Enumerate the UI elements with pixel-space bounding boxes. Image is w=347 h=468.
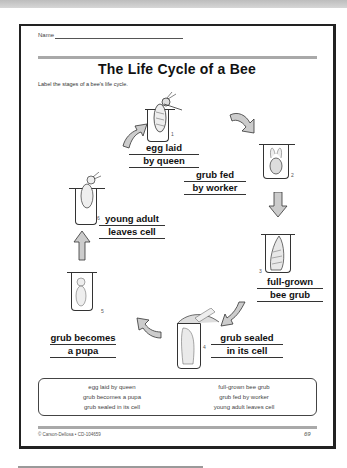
worksheet-page: Name The Life Cycle of a Bee Label the s… xyxy=(19,24,336,449)
stage-label-6[interactable]: young adult leaves cell xyxy=(99,214,165,240)
stage-label-2[interactable]: grub fed by worker xyxy=(184,170,246,196)
arrow-icon xyxy=(228,109,258,135)
arrow-icon xyxy=(268,192,288,218)
stage-number: 1 xyxy=(171,131,174,137)
arrow-icon xyxy=(119,120,149,150)
name-input-line[interactable] xyxy=(55,38,183,39)
arrow-icon xyxy=(133,316,163,344)
instructions: Label the stages of a bee's life cycle. xyxy=(38,81,128,87)
stage-number: 5 xyxy=(101,308,104,314)
page-number: 69 xyxy=(304,431,311,437)
arrow-icon xyxy=(73,230,91,262)
young-adult-bee-icon xyxy=(73,172,103,212)
grub-icon xyxy=(179,326,197,366)
word-bank-item: full-grown bee grub xyxy=(179,382,309,392)
arrow-icon xyxy=(219,300,249,330)
stage-number: 3 xyxy=(259,268,262,274)
word-bank-item: grub sealed in its cell xyxy=(47,402,177,412)
word-bank-left: egg laid by queen grub becomes a pupa gr… xyxy=(47,382,177,412)
stage-number: 2 xyxy=(291,172,294,178)
footer-rule xyxy=(38,426,317,429)
name-label: Name xyxy=(38,32,54,38)
word-bank-item: grub fed by worker xyxy=(179,392,309,402)
word-bank: egg laid by queen grub becomes a pupa gr… xyxy=(38,378,317,416)
stage-number: 4 xyxy=(203,344,206,350)
title-rule xyxy=(38,56,317,59)
grub-icon xyxy=(267,234,287,272)
word-bank-item: egg laid by queen xyxy=(47,382,177,392)
pupa-icon xyxy=(73,276,89,308)
copyright: © Carson-Dellosa • CD-104659 xyxy=(38,432,101,437)
grub-fed-bee-icon xyxy=(265,144,287,176)
scan-top-band xyxy=(0,0,347,8)
page-title: The Life Cycle of a Bee xyxy=(21,61,333,77)
stage-label-4[interactable]: grub sealed in its cell xyxy=(211,333,283,359)
stage-label-5[interactable]: grub becomes a pupa xyxy=(50,333,116,359)
word-bank-item: young adult leaves cell xyxy=(179,402,309,412)
word-bank-item: grub becomes a pupa xyxy=(47,392,177,402)
word-bank-right: full-grown bee grub grub fed by worker y… xyxy=(179,382,309,412)
stage-label-3[interactable]: full-grown bee grub xyxy=(257,277,323,303)
adult-bee-icon xyxy=(146,92,186,137)
